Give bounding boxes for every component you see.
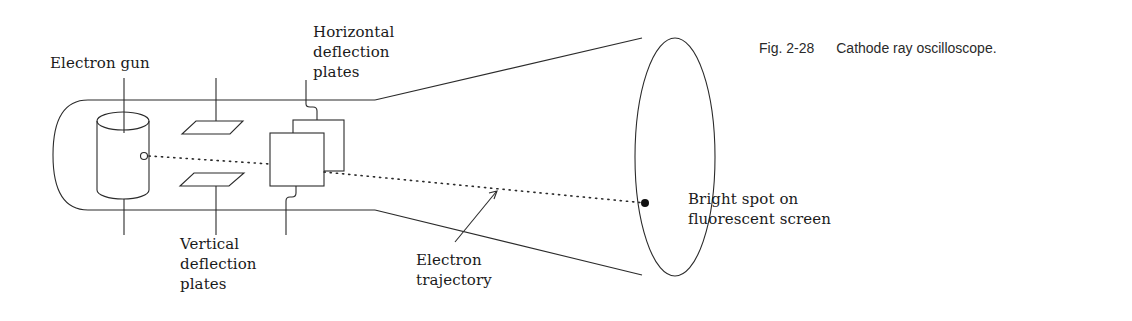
vertical-plates-label: Vertical deflection plates bbox=[180, 234, 257, 294]
figure-title: Cathode ray oscilloscope. bbox=[836, 40, 996, 56]
figure-caption: Fig. 2-28Cathode ray oscilloscope. bbox=[759, 40, 997, 56]
figure-number: Fig. 2-28 bbox=[759, 40, 814, 56]
bright-spot-icon bbox=[641, 199, 649, 207]
horizontal-plates-label: Horizontal deflection plates bbox=[313, 22, 394, 82]
bright-spot-label: Bright spot on fluorescent screen bbox=[688, 189, 831, 229]
vertical-deflection-plates-icon bbox=[180, 78, 244, 235]
electron-gun-label: Electron gun bbox=[50, 53, 150, 73]
electron-gun-icon bbox=[97, 78, 149, 235]
fluorescent-screen bbox=[635, 38, 715, 276]
horizontal-deflection-plates-icon bbox=[270, 80, 344, 235]
electron-trajectory-label: Electron trajectory bbox=[416, 250, 492, 290]
